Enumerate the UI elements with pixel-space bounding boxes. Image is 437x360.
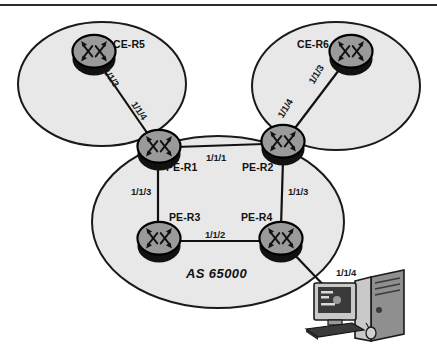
node-label-pe-r1: PE-R1 (166, 161, 197, 173)
node-label-pe-r2: PE-R2 (242, 161, 273, 173)
interface-label-pe-r1-1-1-3: 1/1/3 (131, 186, 151, 197)
node-label-pe-r4: PE-R4 (241, 211, 272, 223)
interface-label-pe-r2-1-1-3: 1/1/3 (288, 186, 308, 197)
router-icon-pe-r4[interactable] (259, 222, 302, 263)
as-number-label: AS 65000 (186, 266, 247, 281)
interface-label-pe-r1-1-1-1: 1/1/1 (206, 152, 226, 163)
interface-label-pe-r3-1-1-2: 1/1/2 (205, 229, 225, 240)
router-icon-ce-r6[interactable] (329, 35, 372, 76)
node-label-pe-r3: PE-R3 (169, 211, 200, 223)
interface-label-pe-r4-1-1-4: 1/1/4 (336, 267, 356, 278)
router-icon-pe-r2[interactable] (261, 125, 304, 166)
node-label-ce-r5: CE-R5 (113, 38, 145, 50)
diagram-svg (0, 0, 437, 360)
network-diagram-canvas: CE-R5 CE-R6 PE-R1 PE-R2 PE-R3 PE-R4 1/1/… (0, 0, 437, 360)
router-icon-pe-r3[interactable] (137, 222, 180, 263)
node-label-ce-r6: CE-R6 (297, 38, 329, 50)
